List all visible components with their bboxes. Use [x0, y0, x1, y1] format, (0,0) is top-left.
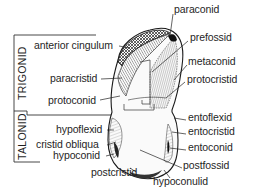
label-anterior-cingulum: anterior cingulum [34, 40, 113, 51]
label-protocristid: protocristid [187, 74, 237, 85]
label-entoflexid: entoflexid [188, 112, 232, 123]
label-protoconid: protoconid [48, 95, 96, 106]
label-metaconid: metaconid [188, 56, 236, 67]
tooth-crown [108, 28, 183, 178]
label-paraconid: paraconid [174, 4, 219, 15]
label-paracristid: paracristid [50, 73, 97, 84]
label-entocristid: entocristid [188, 126, 235, 137]
label-hypoconid: hypoconid [53, 150, 100, 161]
label-hypoflexid: hypoflexid [56, 124, 102, 135]
region-label-trigonid: TRIGONID [17, 46, 28, 100]
label-hypoconulid: hypoconulid [153, 176, 208, 187]
label-postcristid: postcristid [91, 167, 137, 178]
label-entoconid: entoconid [188, 142, 233, 153]
label-prefossid: prefossid [190, 32, 232, 43]
tooth-diagram: TRIGONID TALONID anterior cingulum parac… [0, 0, 253, 190]
region-label-talonid: TALONID [17, 113, 28, 160]
label-postfossid: postfossid [183, 160, 229, 171]
